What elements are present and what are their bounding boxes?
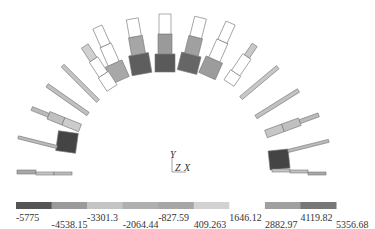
block-dark-left <box>18 131 78 154</box>
colorbar-tick-label: -5775 <box>16 212 39 223</box>
colorbar-tick-label: -4538.15 <box>52 219 88 229</box>
block-stack-center <box>155 14 175 72</box>
colorbar-tick-label: -827.59 <box>158 212 189 223</box>
block-dark-right <box>268 139 329 170</box>
base-bar-right <box>272 169 326 175</box>
axis-x-label: X <box>184 162 190 173</box>
colorbar-tick-label: 1646.12 <box>229 212 262 223</box>
colorbar-tick-label: -2064.44 <box>123 219 159 229</box>
rod-r5 <box>255 89 300 119</box>
colorbar-segment <box>123 202 159 209</box>
axis-y-label: Y <box>170 149 176 160</box>
block-stack-r6 <box>265 111 320 138</box>
colorbar-tick-label: -3301.3 <box>87 212 118 223</box>
colorbar-segment <box>229 202 265 209</box>
block-stack-r3 <box>224 42 260 87</box>
colorbar-tick-label: 5356.68 <box>336 219 369 229</box>
colorbar-tick-label: 2882.97 <box>265 219 298 229</box>
colorbar-segment <box>265 202 301 209</box>
contour-plot <box>0 0 375 229</box>
colorbar-tick-label: 4119.82 <box>300 212 332 223</box>
colorbar-segment <box>52 202 88 209</box>
block-stack-l1 <box>122 17 151 76</box>
base-bar-left <box>17 170 72 175</box>
axis-z-label: Z <box>175 162 181 173</box>
colorbar-tick-label: 409.263 <box>194 219 227 229</box>
colorbar <box>16 202 337 209</box>
rod-r4 <box>240 66 279 100</box>
colorbar-segment <box>194 202 230 209</box>
colorbar-segment <box>16 202 52 209</box>
block-stack-l6 <box>30 105 81 132</box>
colorbar-segment <box>158 202 194 209</box>
colorbar-segment <box>87 202 123 209</box>
colorbar-segment <box>300 202 336 209</box>
